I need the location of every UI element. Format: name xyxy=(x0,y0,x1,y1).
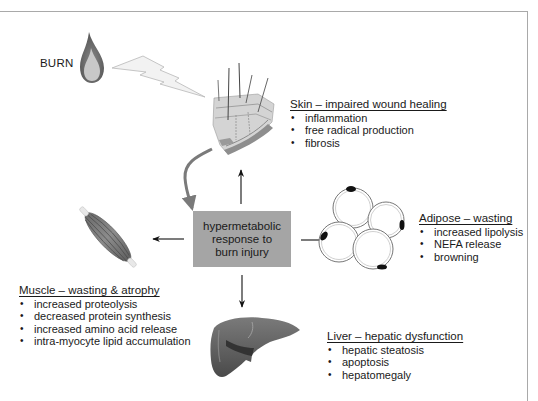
liver-title: Liver – hepatic dysfunction xyxy=(327,330,463,344)
liver-effects: Liver – hepatic dysfunction hepatic stea… xyxy=(327,330,463,381)
list-item: inflammation xyxy=(290,112,447,125)
adipose-title: Adipose – wasting xyxy=(419,212,523,226)
curved-arrow xyxy=(185,149,212,208)
muscle-title: Muscle – wasting & atrophy xyxy=(19,284,191,298)
center-line: hypermetabolic xyxy=(203,220,281,233)
muscle-icon xyxy=(74,201,142,272)
list-item: fibrosis xyxy=(290,137,447,150)
list-item: intra-myocyte lipid accumulation xyxy=(19,335,191,348)
center-box-hypermetabolic-response: hypermetabolic response to burn injury xyxy=(193,211,291,267)
skin-title: Skin – impaired wound healing xyxy=(290,98,447,112)
skin-cross-section-icon xyxy=(213,63,274,155)
center-line: burn injury xyxy=(203,246,281,259)
list-item: increased proteolysis xyxy=(19,298,191,311)
lightning-bolt-icon xyxy=(112,56,205,97)
list-item: increased amino acid release xyxy=(19,323,191,336)
skin-effects: Skin – impaired wound healing inflammati… xyxy=(290,98,447,149)
list-item: free radical production xyxy=(290,124,447,137)
flame-icon xyxy=(80,32,104,83)
list-item: hepatic steatosis xyxy=(327,344,463,357)
adipocytes-icon xyxy=(319,186,405,270)
list-item: decreased protein synthesis xyxy=(19,310,191,323)
liver-icon xyxy=(210,317,300,377)
list-item: hepatomegaly xyxy=(327,369,463,382)
list-item: apoptosis xyxy=(327,356,463,369)
list-item: increased lipolysis xyxy=(419,226,523,239)
muscle-effects: Muscle – wasting & atrophy increased pro… xyxy=(19,284,191,348)
burn-label: BURN xyxy=(40,57,73,69)
list-item: NEFA release xyxy=(419,238,523,251)
adipose-effects: Adipose – wasting increased lipolysis NE… xyxy=(419,212,523,263)
list-item: browning xyxy=(419,251,523,264)
center-line: response to xyxy=(203,233,281,246)
